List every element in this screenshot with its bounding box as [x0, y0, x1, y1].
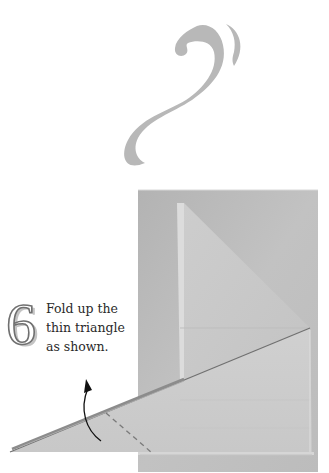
- instruction-line: as shown.: [46, 337, 156, 356]
- step-instruction: Fold up the thin triangle as shown.: [46, 299, 156, 356]
- instruction-line: thin triangle: [46, 318, 156, 337]
- swirl-ornament-icon: [124, 24, 240, 166]
- step-block: 6 Fold up the thin triangle as shown.: [6, 297, 146, 367]
- instruction-line: Fold up the: [46, 299, 156, 318]
- step-number: 6: [6, 289, 36, 359]
- illustration: [0, 0, 329, 473]
